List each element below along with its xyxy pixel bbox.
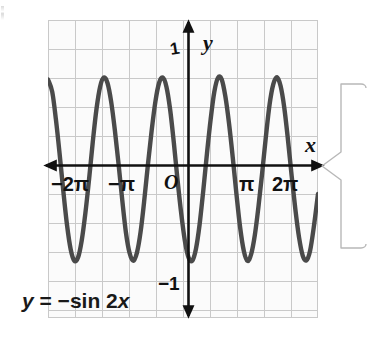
x-tick-label-2pi: 2π: [272, 173, 298, 195]
x-tick-label-neg-pi: −π: [108, 173, 135, 195]
equation-label: y = −sin 2x: [21, 289, 131, 312]
figure-graph-of-negative-sine-2x: x y 1 −1 O −2π −π π 2π y = −sin 2x: [0, 0, 370, 343]
coordinate-plane: x y 1 −1 O −2π −π π 2π y = −sin 2x: [0, 0, 370, 343]
callout-pointer: [322, 84, 366, 248]
x-tick-label-neg-2pi: −2π: [51, 173, 89, 195]
axis-label-x: x: [304, 132, 316, 157]
origin-label: O: [164, 171, 178, 193]
y-tick-label-negative-one: −1: [158, 273, 180, 294]
x-tick-label-pi: π: [239, 173, 254, 195]
page-edge-artifact: [1, 6, 4, 20]
